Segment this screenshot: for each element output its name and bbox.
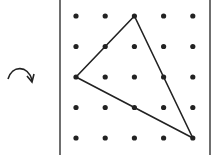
rotation-arrow bbox=[8, 69, 34, 82]
peg-dot bbox=[103, 105, 108, 110]
peg-dot bbox=[103, 74, 108, 79]
peg-dot bbox=[161, 44, 166, 49]
peg-dot bbox=[190, 44, 195, 49]
peg-dot bbox=[73, 105, 78, 110]
geoboard-diagram bbox=[0, 0, 214, 155]
peg-dot bbox=[190, 105, 195, 110]
peg-dot bbox=[161, 13, 166, 18]
peg-dot bbox=[73, 44, 78, 49]
peg-dot bbox=[161, 135, 166, 140]
peg-dot bbox=[132, 44, 137, 49]
peg-dot bbox=[190, 13, 195, 18]
peg-dot bbox=[161, 105, 166, 110]
peg-dot bbox=[132, 135, 137, 140]
peg-dot bbox=[190, 74, 195, 79]
peg-grid bbox=[73, 13, 195, 140]
peg-dot bbox=[103, 13, 108, 18]
peg-dot bbox=[73, 135, 78, 140]
peg-dot bbox=[103, 135, 108, 140]
peg-dot bbox=[132, 74, 137, 79]
peg-dot bbox=[73, 13, 78, 18]
